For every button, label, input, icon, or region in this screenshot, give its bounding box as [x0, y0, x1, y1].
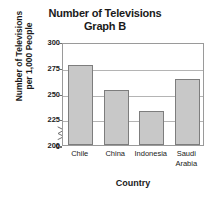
y-axis-title: Number of Televisions per 1,000 People — [11, 4, 37, 108]
bars-layer — [63, 44, 203, 145]
x-axis-tick-labels: ChileChinaIndonesiaSaudiArabia — [62, 149, 204, 173]
bar[interactable] — [175, 79, 200, 145]
plot-area — [62, 43, 204, 146]
bar[interactable] — [68, 65, 93, 145]
y-axis-tick-label: 250 — [38, 91, 60, 99]
y-axis-title-line-2: per 1,000 People — [24, 11, 35, 102]
y-axis-tick-label: 225 — [38, 116, 60, 124]
y-axis-tick-label: 0 — [38, 143, 60, 151]
bar[interactable] — [104, 90, 129, 145]
x-axis-tick-label: SaudiArabia — [166, 149, 208, 168]
x-axis-title: Country — [62, 178, 204, 188]
x-axis-tick-label-line: Saudi — [166, 149, 208, 159]
bar[interactable] — [139, 111, 164, 145]
bar-chart-figure: Number of Televisions Graph B Number of … — [0, 0, 210, 201]
y-axis-tick-label: 300 — [38, 39, 60, 47]
y-axis-tick-label: 275 — [38, 65, 60, 73]
y-axis-title-line-1: Number of Televisions — [14, 11, 25, 102]
x-axis-tick-label-line: Arabia — [166, 159, 208, 169]
y-axis-tick-mark — [59, 147, 62, 148]
y-axis-title-text: Number of Televisions per 1,000 People — [14, 11, 35, 102]
